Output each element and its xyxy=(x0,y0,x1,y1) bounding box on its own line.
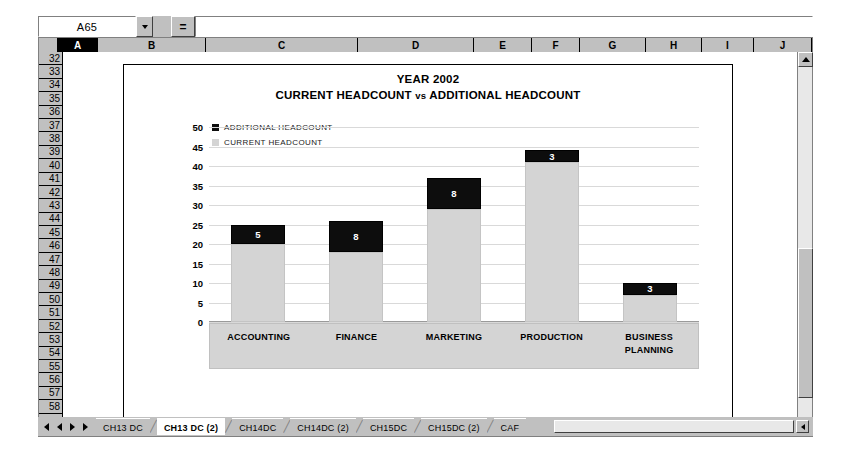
row-header-43[interactable]: 43 xyxy=(39,199,62,212)
y-axis-tick-30: 30 xyxy=(192,200,203,211)
column-header-d[interactable]: D xyxy=(358,38,474,52)
sheet-canvas[interactable]: YEAR 2002 CURRENT HEADCOUNT vs ADDITIONA… xyxy=(63,52,797,436)
sheet-tab-ch14dc[interactable]: CH14DC xyxy=(232,418,283,435)
vertical-scroll-thumb[interactable] xyxy=(798,248,813,398)
sheet-tab-caf[interactable]: CAF xyxy=(494,418,527,435)
name-box-dropdown-button[interactable] xyxy=(136,16,153,37)
sheet-tab-ch15dc-2[interactable]: CH15DC (2) xyxy=(421,418,487,435)
bar-segment-current[interactable] xyxy=(427,209,481,322)
row-header-44[interactable]: 44 xyxy=(39,213,62,226)
column-header-row: ABCDEFGHIJ xyxy=(39,38,812,52)
row-header-41[interactable]: 41 xyxy=(39,173,62,186)
category-label-3: PRODUCTION xyxy=(503,324,601,368)
row-header-39[interactable]: 39 xyxy=(39,146,62,159)
column-header-c[interactable]: C xyxy=(206,38,358,52)
y-axis-tick-5: 5 xyxy=(198,297,203,308)
row-header-52[interactable]: 52 xyxy=(39,320,62,333)
row-header-49[interactable]: 49 xyxy=(39,280,62,293)
tab-separator: ╱ xyxy=(283,418,290,435)
chart-title: YEAR 2002 xyxy=(124,73,732,85)
worksheet-grid: ABCDEFGHIJ 32333435363738394041424344454… xyxy=(38,37,813,437)
column-header-a[interactable]: A xyxy=(58,38,98,52)
stacked-bar[interactable]: 8 xyxy=(329,127,383,322)
row-header-51[interactable]: 51 xyxy=(39,306,62,319)
row-header-54[interactable]: 54 xyxy=(39,347,62,360)
row-header-40[interactable]: 40 xyxy=(39,159,62,172)
row-header-38[interactable]: 38 xyxy=(39,132,62,145)
bar-segment-additional[interactable]: 3 xyxy=(623,283,677,295)
bar-segment-additional[interactable]: 5 xyxy=(231,225,285,245)
formula-bar-gap xyxy=(153,16,171,37)
row-header-48[interactable]: 48 xyxy=(39,266,62,279)
chart-category-axis: ACCOUNTINGFINANCEMARKETINGPRODUCTIONBUSI… xyxy=(209,323,699,369)
bar-segment-current[interactable] xyxy=(231,244,285,322)
tab-separator: ╱ xyxy=(150,418,157,435)
chart-bars: 58833 xyxy=(209,127,699,322)
chart-subtitle-left: CURRENT HEADCOUNT xyxy=(275,89,411,101)
row-header-36[interactable]: 36 xyxy=(39,106,62,119)
chart-subtitle-right: ADDITIONAL HEADCOUNT xyxy=(429,89,580,101)
y-axis-tick-50: 50 xyxy=(192,122,203,133)
stacked-bar[interactable]: 3 xyxy=(525,127,579,322)
first-sheet-button[interactable] xyxy=(40,420,53,434)
bar-segment-additional[interactable]: 3 xyxy=(525,150,579,162)
select-all-corner[interactable] xyxy=(39,38,58,52)
horizontal-scroll-left-button[interactable] xyxy=(796,420,809,433)
scroll-up-button[interactable] xyxy=(798,52,813,67)
sheet-tab-ch14dc-2[interactable]: CH14DC (2) xyxy=(290,418,356,435)
row-header-42[interactable]: 42 xyxy=(39,186,62,199)
row-header-56[interactable]: 56 xyxy=(39,373,62,386)
row-header-33[interactable]: 33 xyxy=(39,65,62,78)
previous-sheet-button[interactable] xyxy=(53,420,66,434)
bar-segment-additional[interactable]: 8 xyxy=(427,178,481,209)
sheet-tab-ch13-dc[interactable]: CH13 DC xyxy=(96,418,150,435)
row-header-32[interactable]: 32 xyxy=(39,52,62,65)
y-axis-tick-20: 20 xyxy=(192,239,203,250)
formula-input[interactable] xyxy=(195,16,813,37)
chevron-down-icon xyxy=(142,25,148,29)
horizontal-scroll-track[interactable] xyxy=(554,420,794,433)
y-axis-tick-15: 15 xyxy=(192,258,203,269)
category-label-2: MARKETING xyxy=(405,324,503,368)
column-header-j[interactable]: J xyxy=(754,38,812,52)
column-header-e[interactable]: E xyxy=(474,38,532,52)
bar-segment-current[interactable] xyxy=(329,252,383,322)
column-header-i[interactable]: I xyxy=(702,38,754,52)
column-header-b[interactable]: B xyxy=(98,38,206,52)
category-label-0: ACCOUNTING xyxy=(210,324,308,368)
row-header-35[interactable]: 35 xyxy=(39,92,62,105)
sheet-tab-ch13-dc-2[interactable]: CH13 DC (2) xyxy=(157,418,225,435)
sheet-tab-ch15dc[interactable]: CH15DC xyxy=(363,418,414,435)
bar-data-label: 3 xyxy=(647,283,652,294)
row-header-46[interactable]: 46 xyxy=(39,239,62,252)
stacked-bar[interactable]: 3 xyxy=(623,127,677,322)
row-header-37[interactable]: 37 xyxy=(39,119,62,132)
column-header-h[interactable]: H xyxy=(646,38,702,52)
row-header-45[interactable]: 45 xyxy=(39,226,62,239)
next-sheet-button[interactable] xyxy=(66,420,79,434)
row-header-53[interactable]: 53 xyxy=(39,333,62,346)
column-header-f[interactable]: F xyxy=(532,38,580,52)
row-header-50[interactable]: 50 xyxy=(39,293,62,306)
tab-split-area xyxy=(552,420,813,434)
vertical-scrollbar[interactable] xyxy=(797,52,812,436)
stacked-bar[interactable]: 8 xyxy=(427,127,481,322)
bar-segment-additional[interactable]: 8 xyxy=(329,221,383,252)
name-box[interactable]: A65 xyxy=(38,16,136,37)
column-header-g[interactable]: G xyxy=(580,38,646,52)
tab-separator: ╱ xyxy=(414,418,421,435)
column-headers: ABCDEFGHIJ xyxy=(58,38,812,51)
row-header-57[interactable]: 57 xyxy=(39,387,62,400)
bar-segment-current[interactable] xyxy=(623,295,677,322)
last-sheet-button[interactable] xyxy=(79,420,92,434)
last-icon xyxy=(83,423,88,431)
row-header-34[interactable]: 34 xyxy=(39,79,62,92)
row-header-58[interactable]: 58 xyxy=(39,400,62,413)
row-header-55[interactable]: 55 xyxy=(39,360,62,373)
row-header-47[interactable]: 47 xyxy=(39,253,62,266)
chart-object[interactable]: YEAR 2002 CURRENT HEADCOUNT vs ADDITIONA… xyxy=(123,64,733,419)
stacked-bar[interactable]: 5 xyxy=(231,127,285,322)
bar-segment-current[interactable] xyxy=(525,162,579,322)
bar-slot-4: 3 xyxy=(601,127,699,322)
edit-formula-button[interactable]: = xyxy=(171,16,195,37)
